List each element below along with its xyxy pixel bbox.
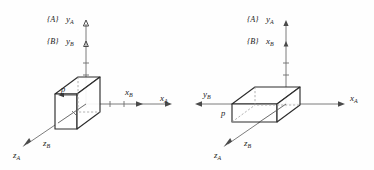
left-frame-b-label: {B} (47, 37, 59, 46)
left-y-a-label: yA (65, 14, 74, 25)
left-z-a-label: zA (12, 150, 21, 161)
panel-right: {A} yA {B} xB yB xA zA zB p (195, 14, 358, 161)
right-block (232, 87, 300, 122)
right-x-a-label: xA (349, 93, 358, 104)
right-y-b-arrowhead (195, 101, 202, 107)
right-y-a-arrowhead (283, 20, 288, 26)
right-z-b-label: zB (243, 138, 252, 149)
right-point-p-label: p (220, 108, 225, 118)
left-x-b-arrowhead (136, 101, 143, 107)
right-y-a-label: yA (265, 14, 274, 25)
right-block-front-face (232, 104, 277, 122)
right-x-b-label: xB (265, 36, 274, 47)
left-z-b-label: zB (42, 138, 51, 149)
figure-root: {A} yA {B} yB xB xA zA zB p (0, 0, 374, 170)
right-x-b-arrowhead (284, 41, 289, 47)
right-frame-b-label: {B} (247, 37, 259, 46)
right-z-a-label: zA (213, 150, 222, 161)
left-frame-a-label: {A} (47, 15, 59, 24)
right-frame-a-label: {A} (247, 15, 259, 24)
right-x-a-arrowhead (338, 101, 345, 107)
panel-left: {A} yA {B} yB xB xA zA zB p (12, 14, 172, 161)
left-block-front-face (55, 94, 77, 129)
left-y-b-label: yB (65, 36, 74, 47)
left-point-p-label: p (60, 84, 65, 94)
right-y-b-label: yB (202, 89, 211, 100)
left-x-b-label: xB (124, 87, 133, 98)
left-x-a-label: xA (159, 93, 168, 104)
diagram-canvas: {A} yA {B} yB xB xA zA zB p (0, 0, 374, 170)
